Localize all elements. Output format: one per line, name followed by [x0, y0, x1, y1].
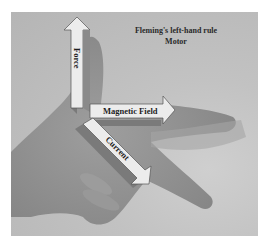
magnetic-field-label: Magnetic Field	[103, 106, 158, 116]
fleming-left-hand-rule-image: Force Magnetic Field Current Fleming's l…	[11, 12, 258, 236]
figure-title: Fleming's left-hand rule	[111, 26, 241, 35]
force-label: Force	[72, 48, 82, 69]
figure-subtitle: Motor	[111, 37, 241, 46]
